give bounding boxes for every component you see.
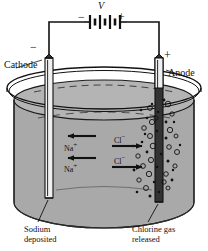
wire-right [127, 22, 159, 68]
sodium-charge-2: + [73, 162, 77, 170]
voltage-source-label: V [98, 1, 104, 12]
anode-polarity-label: + [164, 49, 171, 62]
cathode-label: Cathode [4, 60, 37, 71]
sodium-caption-line1: Sodium [24, 224, 50, 234]
sodium-deposited-caption: Sodium deposited [24, 224, 57, 244]
cathode-rod-body [45, 58, 53, 198]
chloride-symbol-2: Cl [114, 157, 122, 166]
chlorine-caption-line1: Chlorine gas [132, 224, 175, 234]
chloride-charge-1: − [122, 133, 126, 141]
sodium-ion-lower-label: Na+ [64, 162, 77, 174]
chloride-symbol-1: Cl [114, 136, 122, 145]
anode-electrode [155, 54, 163, 202]
wire-left [49, 22, 84, 60]
wire-icon [49, 22, 159, 68]
anode-label: Anode [168, 68, 195, 79]
cathode-polarity-label: − [30, 41, 37, 54]
chlorine-caption-line2: released [132, 234, 160, 244]
chloride-ion-lower-label: Cl− [114, 154, 126, 166]
sodium-charge-1: + [73, 141, 77, 149]
chlorine-released-caption: Chlorine gas released [132, 224, 175, 244]
diagram-canvas [0, 0, 208, 251]
sodium-symbol-2: Na [64, 165, 73, 174]
sodium-ion-upper-label: Na+ [64, 141, 77, 153]
chloride-ion-upper-label: Cl− [114, 133, 126, 145]
battery-minus-terminal-label: − [78, 11, 85, 24]
battery-plus-terminal-label: + [118, 11, 125, 24]
anode-rod-tip [155, 54, 163, 58]
chloride-charge-2: − [122, 154, 126, 162]
anode-rod-upper [155, 58, 163, 88]
sodium-symbol-1: Na [64, 144, 73, 153]
cathode-electrode [45, 54, 53, 198]
sodium-caption-line2: deposited [24, 234, 57, 244]
electrolysis-diagram: V − + − + Cathode Anode Na+ Na+ Cl− Cl− … [0, 0, 208, 251]
beaker-icon [7, 67, 201, 228]
cathode-rod-tip [45, 54, 53, 58]
liquid-surface [14, 80, 194, 120]
